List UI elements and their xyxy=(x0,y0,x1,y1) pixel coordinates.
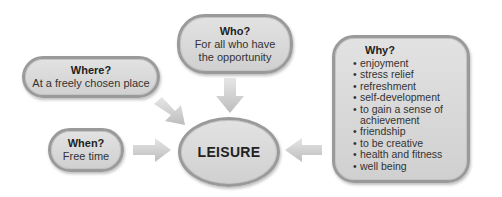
leisure-label: LEISURE xyxy=(198,144,261,160)
where-answer: At a freely chosen place xyxy=(32,77,149,90)
leisure-center-node: LEISURE xyxy=(178,117,280,187)
who-question: Who? xyxy=(220,25,251,38)
where-node: Where? At a freely chosen place xyxy=(22,56,160,98)
when-node: When? Free time xyxy=(48,128,124,172)
why-item: self-development xyxy=(353,92,470,103)
where-question: Where? xyxy=(71,64,111,77)
who-answer-line1: For all who have xyxy=(195,38,276,51)
why-item: to gain a sense of achievement xyxy=(353,104,470,127)
who-answer-line2: the opportunity xyxy=(199,51,272,64)
why-reasons-list: enjoyment stress relief refreshment self… xyxy=(353,58,470,172)
arrow-when-to-leisure xyxy=(133,138,171,162)
why-node: Why? enjoyment stress relief refreshment… xyxy=(332,35,470,183)
who-node: Who? For all who have the opportunity xyxy=(177,14,293,74)
why-item: health and fitness xyxy=(353,149,470,160)
why-question: Why? xyxy=(365,44,395,57)
arrow-where-to-leisure xyxy=(154,97,185,125)
arrow-who-to-leisure xyxy=(216,78,244,113)
arrow-why-to-leisure xyxy=(285,138,322,162)
when-question: When? xyxy=(68,137,105,150)
when-answer: Free time xyxy=(63,150,109,163)
why-item: well being xyxy=(353,161,470,172)
